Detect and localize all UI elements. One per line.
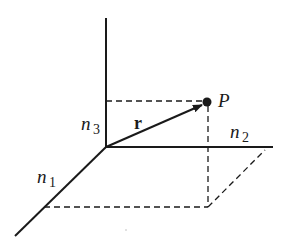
vector-r	[106, 105, 202, 147]
label-r: r	[134, 113, 142, 133]
label-n2: n	[230, 121, 240, 142]
projection-lines	[44, 101, 265, 207]
diagram-canvas: P r n 3 n 2 n 1	[0, 0, 293, 246]
label-n1: n	[37, 166, 47, 187]
label-n3-subscript: 3	[93, 122, 100, 137]
label-p: P	[217, 90, 230, 111]
coordinate-diagram: P r n 3 n 2 n 1	[0, 0, 293, 246]
label-n3: n	[81, 113, 91, 134]
point-p-marker	[203, 98, 212, 107]
label-n1-subscript: 1	[49, 175, 56, 190]
speck	[125, 229, 127, 231]
axis-n1	[15, 147, 106, 236]
label-n2-subscript: 2	[242, 130, 249, 145]
